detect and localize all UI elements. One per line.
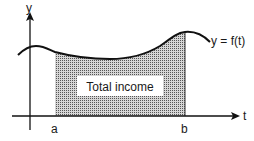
shaded-area [55,32,185,116]
x-axis-label: t [243,109,247,123]
upper-bound-label: b [181,122,188,136]
curve-label: y = f(t) [211,34,245,48]
y-axis-label: y [26,1,32,15]
area-label: Total income [86,80,154,94]
lower-bound-label: a [51,122,58,136]
income-diagram: y t y = f(t) a b Total income [0,0,254,141]
